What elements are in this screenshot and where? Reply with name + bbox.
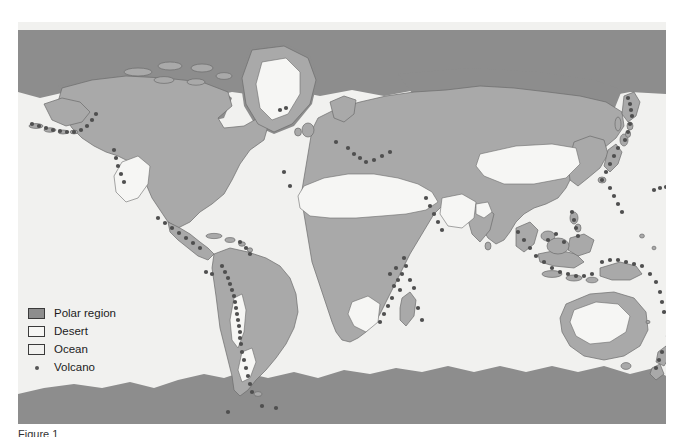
sri-lanka [485, 242, 491, 250]
sakhalin [615, 117, 621, 131]
legend-label-polar-region: Polar region [54, 307, 116, 320]
legend-item-polar-region[interactable]: Polar region [28, 305, 178, 322]
legend-label-desert: Desert [54, 325, 88, 338]
legend-swatch-polar-region [28, 308, 45, 319]
figure-world-map: Polar region Desert Ocean Volcano Figure… [0, 0, 686, 437]
legend-swatch-ocean [28, 344, 45, 355]
legend-label-ocean: Ocean [54, 343, 88, 356]
legend-swatch-desert [28, 326, 45, 337]
map-legend: Polar region Desert Ocean Volcano [28, 305, 178, 377]
legend-item-ocean[interactable]: Ocean [28, 341, 178, 358]
falkland-islands [254, 392, 262, 397]
legend-label-volcano: Volcano [54, 361, 95, 374]
legend-item-desert[interactable]: Desert [28, 323, 178, 340]
volcano-dot-icon [35, 366, 39, 370]
legend-item-volcano[interactable]: Volcano [28, 359, 178, 376]
figure-caption: Figure 1 [18, 428, 58, 437]
tasmania [621, 363, 631, 370]
legend-swatch-volcano [28, 362, 45, 373]
